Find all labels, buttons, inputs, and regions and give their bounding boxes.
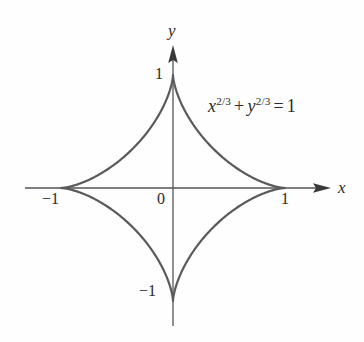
x-tick-label-positive-one: 1	[281, 191, 289, 207]
astroid-figure: y x 1 0 −1 1 −1 x2/3+y2/3=1	[0, 0, 364, 342]
origin-label: 0	[157, 191, 165, 207]
equation-variable-y: y	[247, 96, 255, 116]
equation-exponent-x: 2/3	[216, 95, 231, 107]
equation-right-hand-side: 1	[287, 96, 296, 116]
equation-plus-sign: +	[231, 96, 247, 116]
y-tick-label-negative-one: −1	[139, 283, 156, 299]
y-axis-label: y	[168, 22, 176, 39]
y-tick-label-positive-one: 1	[155, 66, 163, 82]
plot-canvas	[0, 0, 364, 342]
equation-variable-x: x	[208, 96, 216, 116]
equation-annotation: x2/3+y2/3=1	[208, 96, 296, 117]
equation-exponent-y: 2/3	[256, 95, 271, 107]
x-tick-label-negative-one: −1	[42, 191, 59, 207]
equation-equals-sign: =	[270, 96, 286, 116]
x-axis-label: x	[338, 179, 346, 196]
